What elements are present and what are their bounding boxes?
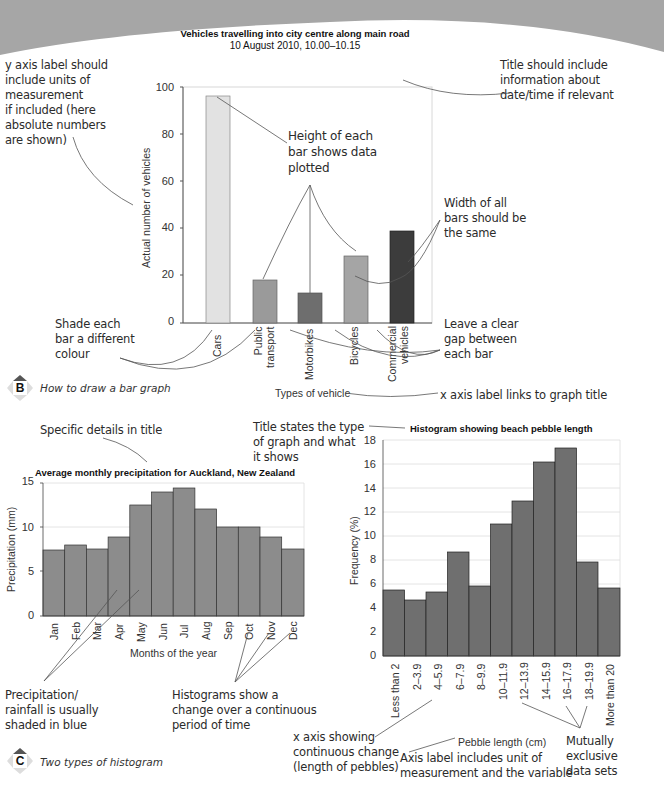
annotation-lines-c (0, 0, 664, 788)
